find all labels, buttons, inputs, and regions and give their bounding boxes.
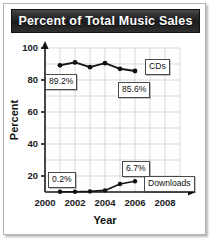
x-tick-2002: 2002 xyxy=(64,197,85,208)
y-axis xyxy=(41,41,49,192)
data-point xyxy=(103,61,108,66)
chart-title-bar: Percent of Total Music Sales xyxy=(11,9,200,33)
data-point xyxy=(88,65,93,70)
x-axis-title: Year xyxy=(93,214,117,226)
x-tick-2006: 2006 xyxy=(124,197,145,208)
series-cds xyxy=(58,60,138,73)
series-label-cds: CDs xyxy=(145,59,170,75)
y-tick-100: 100 xyxy=(22,42,38,53)
data-point xyxy=(133,179,137,183)
plot-area: 100 80 60 40 20 2000 2002 2004 2006 2008… xyxy=(4,34,207,235)
y-tick-labels: 100 80 60 40 20 xyxy=(22,42,38,181)
annotation-cds-2006: 85.6% xyxy=(118,82,150,98)
y-tick-20: 20 xyxy=(27,170,38,181)
y-tick-40: 40 xyxy=(27,138,38,149)
data-point xyxy=(73,190,77,194)
x-tick-2000: 2000 xyxy=(34,197,55,208)
y-tick-60: 60 xyxy=(27,106,38,117)
data-point xyxy=(73,60,78,65)
x-tick-2004: 2004 xyxy=(94,197,116,208)
series-label-downloads: Downloads xyxy=(144,176,195,192)
data-point xyxy=(103,188,107,192)
data-point xyxy=(118,182,122,186)
y-axis-title: Percent xyxy=(8,99,20,140)
y-tick-80: 80 xyxy=(27,74,38,85)
data-point xyxy=(118,66,123,71)
page-title: Percent of Total Music Sales xyxy=(18,14,192,28)
chart-svg: 100 80 60 40 20 2000 2002 2004 2006 2008… xyxy=(4,34,207,235)
annotation-downloads-2001: 0.2% xyxy=(48,172,76,188)
data-point xyxy=(58,190,62,194)
data-point xyxy=(88,189,92,193)
chart-panel: Percent of Total Music Sales xyxy=(3,3,206,235)
x-tick-labels: 2000 2002 2004 2006 2008 xyxy=(34,197,175,208)
data-point xyxy=(133,69,138,74)
data-point xyxy=(58,63,63,68)
annotation-downloads-2006: 6.7% xyxy=(122,161,150,177)
x-tick-2008: 2008 xyxy=(154,197,175,208)
annotation-cds-2001: 89.2% xyxy=(45,74,77,90)
